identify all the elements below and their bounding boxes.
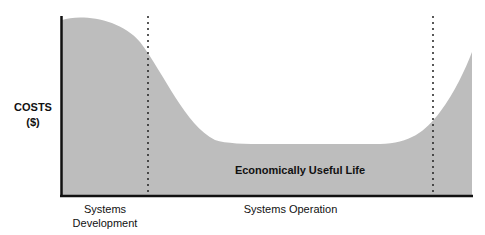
phase1-line1: Systems (62, 202, 148, 216)
y-label-line1: COSTS (8, 100, 58, 115)
economically-useful-life-label: Economically Useful Life (200, 164, 400, 176)
y-axis-label: COSTS ($) (8, 100, 58, 130)
cost-curve-chart (0, 0, 485, 235)
y-label-line2: ($) (8, 115, 58, 130)
phase-label-operation: Systems Operation (148, 202, 433, 216)
phase1-line2: Development (62, 216, 148, 230)
phase-label-development: Systems Development (62, 202, 148, 230)
